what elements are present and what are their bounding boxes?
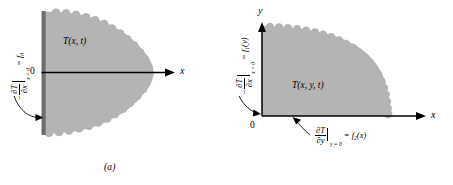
bc-b-left-evaluated-at: x = 0	[251, 62, 257, 74]
bc-a-equals-subscript: 0	[19, 53, 25, 56]
caption-a: (a)	[104, 162, 116, 172]
origin-label-b: 0	[250, 120, 255, 130]
bc-b-left-fraction: ∂T∂x	[235, 78, 254, 89]
panel-a-graphic	[0, 0, 226, 155]
region-label-a: T(x, t)	[63, 36, 86, 46]
bc-a-sign: −	[15, 95, 24, 100]
figure-container: 0 x T(x, t) −∂T∂xx = 0= f0 (a)	[0, 0, 453, 185]
bc-b-bottom-equals-argument: (x)	[357, 130, 366, 140]
bc-a-numerator: ∂T	[10, 84, 19, 95]
region-label-a-text: T(x, t)	[63, 36, 86, 46]
x-axis-label-a: x	[180, 65, 184, 76]
bc-b-left-sign: −	[240, 89, 249, 94]
panel-a: 0 x T(x, t) −∂T∂xx = 0= f0 (a)	[0, 0, 226, 185]
y-axis-label-b: y	[258, 5, 262, 16]
bc-b-bottom-equals: = f2(x)	[344, 131, 366, 140]
panel-b: y x 0 T(x, y, t) −∂T∂xx = 0= f1(y) ∂T∂yy…	[226, 0, 453, 185]
bc-leader-arrow-b-bottom	[293, 117, 311, 135]
bc-a-fraction: ∂T∂x	[10, 84, 29, 95]
x-axis-label-b: x	[431, 109, 435, 120]
region-label-b: T(x, y, t)	[292, 80, 324, 90]
bc-b-left-numerator: ∂T	[235, 78, 244, 89]
bc-b-left-equals-text: = f	[239, 50, 249, 60]
boundary-condition-label-b-bottom: ∂T∂yy = 0= f2(x)	[315, 126, 366, 145]
bc-b-bottom-evaluation-bar	[327, 128, 328, 141]
bc-a-denominator: ∂x	[19, 84, 29, 95]
boundary-condition-label-b-left: −∂T∂xx = 0= f1(y)	[235, 37, 254, 94]
bc-a-evaluation-bar	[12, 81, 25, 82]
bc-b-bottom-denominator: ∂y	[315, 135, 326, 145]
bc-a-equals-text: = f	[14, 56, 24, 66]
bc-b-left-evaluation-bar	[237, 75, 250, 76]
boundary-condition-label-a: −∂T∂xx = 0= f0	[10, 53, 29, 100]
bc-b-left-denominator: ∂x	[244, 78, 254, 89]
bc-b-bottom-equals-text: = f	[344, 130, 354, 140]
bc-a-equals: = f0	[15, 53, 24, 66]
bc-b-bottom-numerator: ∂T	[315, 126, 326, 135]
domain-region-b	[262, 23, 392, 118]
region-label-b-text: T(x, y, t)	[292, 80, 324, 90]
bc-b-bottom-fraction: ∂T∂y	[315, 126, 326, 145]
bc-b-left-equals: = f1(y)	[240, 37, 249, 59]
bc-b-left-equals-subscript: 1	[244, 47, 250, 50]
bc-a-evaluated-at: x = 0	[26, 68, 32, 80]
bc-b-bottom-evaluated-at: y = 0	[330, 142, 342, 148]
bc-leader-arrow-b-left	[239, 96, 261, 117]
bc-b-left-equals-argument: (y)	[239, 37, 249, 46]
bc-b-bottom-equals-subscript: 2	[354, 135, 357, 141]
